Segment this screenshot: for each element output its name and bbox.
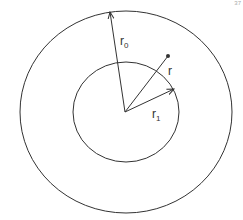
point-dot (166, 54, 170, 58)
radius-r1-arrow (125, 89, 174, 112)
label-r1: r1 (152, 107, 161, 123)
label-r0: r0 (120, 34, 129, 50)
concentric-circles-diagram: r0 r r1 (0, 0, 243, 220)
radius-r-line (125, 56, 168, 112)
label-r: r (168, 64, 172, 78)
